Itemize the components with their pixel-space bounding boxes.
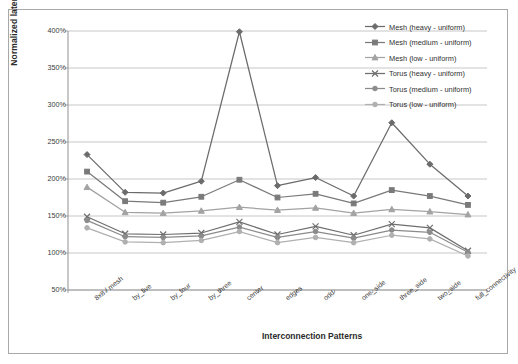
chart-legend: Mesh (heavy - uniform)Mesh (medium - uni…	[364, 19, 510, 112]
chart-figure: Normalized latency Interconnection Patte…	[0, 0, 518, 364]
legend-marker-icon	[364, 99, 386, 110]
legend-marker-icon	[364, 52, 386, 63]
x-tick-label: by_four	[169, 296, 173, 302]
x-tick-label: two_side	[436, 296, 440, 302]
x-tick-label: 8x8 / mesh	[93, 296, 97, 302]
legend-item-label: Mesh (low - uniform)	[389, 53, 456, 63]
legend-marker-icon	[364, 83, 386, 94]
data-point-marker	[373, 40, 378, 45]
x-tick-label: three_side	[398, 296, 402, 302]
legend-item: Mesh (medium - uniform)	[364, 35, 510, 51]
legend-item-label: Mesh (medium - uniform)	[389, 38, 472, 48]
data-point-marker	[373, 102, 378, 107]
x-tick-label: by_five	[131, 296, 135, 302]
x-tick-label: by_three	[207, 296, 211, 302]
x-tick-label: edges	[284, 296, 288, 302]
data-point-marker	[373, 86, 378, 91]
x-tick-label: one_side	[360, 296, 364, 302]
data-point-marker	[372, 24, 378, 30]
legend-item-label: Mesh (heavy - uniform)	[389, 22, 465, 32]
legend-item: Torus (heavy - uniform)	[364, 66, 510, 82]
legend-item: Torus (low - uniform)	[364, 97, 510, 113]
legend-item-label: Torus (medium - uniform)	[389, 84, 472, 94]
legend-marker-icon	[364, 37, 386, 48]
legend-item-label: Torus (low - uniform)	[389, 100, 456, 110]
x-tick-label: full_connectivity	[474, 296, 478, 302]
x-tick-label: center	[245, 296, 249, 302]
x-tick-label: odd	[322, 296, 326, 302]
legend-marker-icon	[364, 21, 386, 32]
legend-marker-icon	[364, 68, 386, 79]
legend-item: Mesh (low - uniform)	[364, 50, 510, 66]
legend-item-label: Torus (heavy - uniform)	[389, 69, 465, 79]
legend-item: Mesh (heavy - uniform)	[364, 19, 510, 35]
legend-item: Torus (medium - uniform)	[364, 81, 510, 97]
